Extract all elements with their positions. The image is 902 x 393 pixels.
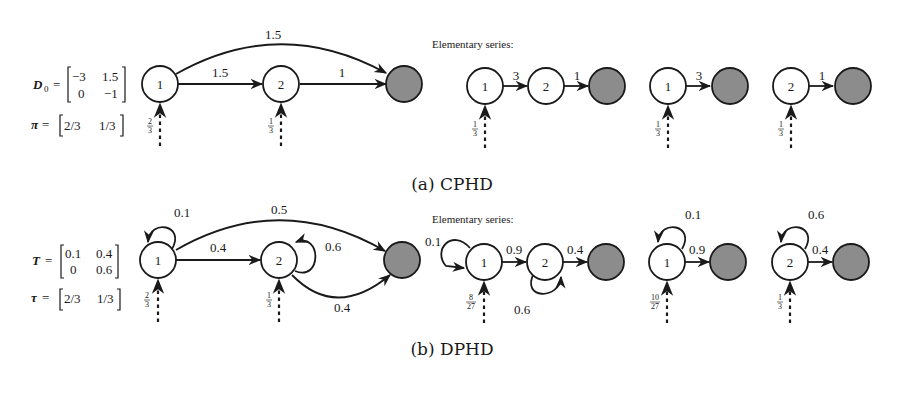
equals-sign: = (53, 77, 60, 92)
initial-prob-num: 1 (473, 120, 477, 129)
node-label: 1 (481, 255, 488, 270)
edge-label: 0.1 (685, 207, 701, 222)
node-label: 2 (788, 79, 795, 94)
vector-cell: 2/3 (64, 118, 81, 133)
absorbing-state-node (589, 68, 625, 104)
initial-prob-num: 2 (145, 291, 149, 300)
node-label: 2 (787, 255, 794, 270)
initial-prob-den: 3 (473, 129, 477, 138)
initial-prob-num: 1 (269, 117, 273, 126)
right-bracket (115, 245, 118, 278)
edge-label: 3 (513, 68, 520, 83)
caption-a: (a) CPHD (411, 174, 493, 194)
node-label: 1 (155, 253, 162, 268)
absorbing-state-node (588, 244, 624, 280)
vector-tau: τ = 2/3 1/3 (31, 289, 120, 310)
edge-2-absorbing (292, 275, 390, 298)
vector-pi: π = 2/3 1/3 (31, 115, 123, 136)
edge-label: 1 (819, 68, 826, 83)
node-label: 1 (664, 255, 671, 270)
matrix-subscript: 0 (44, 84, 49, 94)
right-bracket (120, 115, 123, 136)
initial-prob-den: 3 (267, 300, 271, 309)
edge-label: 1 (574, 68, 581, 83)
absorbing-state-node (835, 68, 871, 104)
initial-prob-den: 3 (145, 300, 149, 309)
node-label: 2 (543, 79, 550, 94)
matrix-d0: D 0 = −3 1.5 0 −1 (32, 67, 125, 102)
edge-label: 1.5 (265, 27, 281, 42)
right-bracket (122, 67, 125, 102)
elementary-series-label: Elementary series: (432, 38, 514, 50)
matrix-cell: 0.4 (96, 246, 113, 261)
initial-prob-num: 2 (148, 117, 152, 126)
matrix-name: D (32, 77, 43, 92)
elementary-series-b-1: 0.1 0.9 0.6 0.4 1 2 8 27 (425, 234, 624, 323)
edge-label: 3 (696, 68, 703, 83)
elementary-series-a-3: 1 2 1 3 (773, 68, 871, 148)
vector-cell: 1/3 (97, 291, 114, 306)
vector-name: τ (31, 290, 38, 305)
initial-prob-den: 3 (148, 126, 152, 135)
self-loop-2 (295, 241, 315, 273)
elementary-series-a-2: 3 1 1 3 (650, 68, 748, 148)
vector-cell: 1/3 (99, 118, 116, 133)
initial-prob-den: 3 (656, 129, 660, 138)
node-label: 2 (278, 77, 285, 92)
caption-b: (b) DPHD (410, 339, 493, 359)
elementary-series-label: Elementary series: (432, 213, 514, 225)
matrix-cell: 0.6 (96, 262, 113, 277)
absorbing-state-node (833, 244, 869, 280)
panel-a: D 0 = −3 1.5 0 −1 π = 2/3 1/3 1.5 1.5 1 (31, 27, 871, 194)
initial-prob-num: 1 (779, 120, 783, 129)
matrix-cell: 0.1 (65, 246, 81, 261)
node-label: 1 (157, 77, 164, 92)
equals-sign: = (42, 290, 49, 305)
initial-prob-num: 1 (778, 293, 782, 302)
equals-sign: = (45, 253, 52, 268)
absorbing-state-node (710, 244, 746, 280)
initial-prob-den: 3 (269, 126, 273, 135)
edge-label: 1.5 (212, 65, 228, 80)
matrix-cell: −1 (104, 86, 118, 101)
initial-prob-den: 27 (467, 302, 475, 311)
vector-name: π (31, 117, 39, 132)
initial-prob-num: 1 (267, 291, 271, 300)
edge-label: 0.6 (514, 302, 531, 317)
edge-label: 0.1 (425, 234, 441, 249)
initial-prob-den: 27 (651, 302, 659, 311)
absorbing-state-node (384, 242, 420, 278)
node-label: 2 (276, 253, 283, 268)
matrix-cell: −3 (72, 69, 86, 84)
elementary-series-a-1: 3 1 1 2 1 3 (467, 68, 625, 148)
node-label: 1 (482, 79, 489, 94)
edge-label: 0.1 (174, 205, 190, 220)
edge-label: 0.9 (689, 242, 705, 257)
edge-label: 0.6 (325, 239, 342, 254)
initial-prob-num: 10 (651, 293, 659, 302)
figure: D 0 = −3 1.5 0 −1 π = 2/3 1/3 1.5 1.5 1 (0, 0, 902, 393)
vector-cell: 2/3 (64, 291, 81, 306)
equals-sign: = (42, 117, 49, 132)
left-bracket (68, 67, 71, 102)
absorbing-state-node (386, 66, 422, 102)
elementary-series-b-2: 0.1 0.9 1 10 27 (649, 207, 746, 323)
matrix-cell: 0 (70, 262, 77, 277)
edge-label: 1 (339, 65, 346, 80)
elementary-series-b-3: 0.6 0.4 2 1 3 (772, 207, 869, 323)
edge-label: 0.4 (210, 240, 227, 255)
edge-label: 0.4 (334, 300, 351, 315)
left-bracket (60, 115, 63, 136)
left-bracket (60, 289, 63, 310)
absorbing-state-node (712, 68, 748, 104)
node-label: 2 (542, 255, 549, 270)
edge-label: 0.4 (812, 242, 829, 257)
edge-label: 0.5 (271, 202, 287, 217)
matrix-cell: 1.5 (102, 69, 118, 84)
main-graph-b: 0.1 0.5 0.4 0.6 0.4 1 2 2 3 1 3 (140, 202, 420, 322)
edge-label: 0.4 (567, 242, 584, 257)
initial-prob-den: 3 (779, 129, 783, 138)
left-bracket (61, 245, 64, 278)
initial-prob-den: 3 (778, 302, 782, 311)
matrix-t: T = 0.1 0.4 0 0.6 (32, 245, 118, 278)
